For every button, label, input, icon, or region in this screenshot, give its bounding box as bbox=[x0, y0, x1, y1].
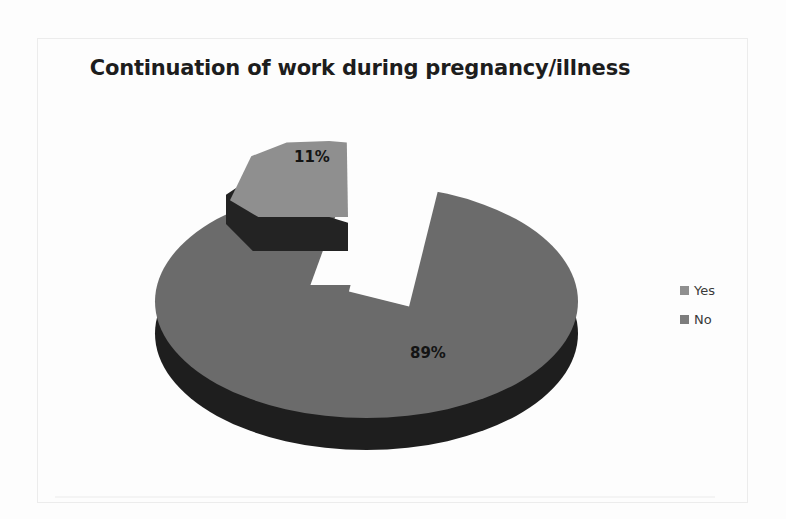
chart-page: Continuation of work during pregnancy/il… bbox=[0, 0, 786, 519]
pie-data-label-no: 89% bbox=[410, 344, 446, 362]
pie-data-label-yes: 11% bbox=[294, 148, 330, 166]
legend-swatch-yes-icon bbox=[680, 286, 689, 295]
legend-item-no[interactable]: No bbox=[680, 305, 750, 334]
legend-label-no: No bbox=[694, 312, 712, 327]
chart-legend: Yes No bbox=[680, 276, 750, 334]
legend-item-yes[interactable]: Yes bbox=[680, 276, 750, 305]
pie-chart-graphic: 11% 89% bbox=[120, 125, 620, 465]
legend-label-yes: Yes bbox=[694, 283, 715, 298]
chart-title: Continuation of work during pregnancy/il… bbox=[0, 56, 720, 80]
pie-slice-yes-top[interactable] bbox=[230, 141, 348, 217]
scan-artifact bbox=[55, 496, 715, 498]
legend-swatch-no-icon bbox=[680, 315, 689, 324]
